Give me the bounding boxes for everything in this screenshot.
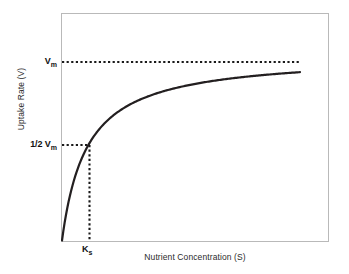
- x-axis-title: Nutrient Concentration (S): [61, 252, 329, 262]
- half-vmax-subscript: m: [51, 144, 57, 151]
- vmax-subscript: m: [51, 61, 57, 68]
- michaelis-menten-chart-figure: Vm 1/2 Vm Ks Nutrient Concentration (S) …: [0, 0, 349, 274]
- y-tick-label-half-vmax: 1/2 Vm: [30, 139, 57, 151]
- y-axis-title: Uptake Rate (V): [16, 34, 26, 164]
- half-fraction: 1/2: [30, 139, 42, 149]
- y-tick-label-vmax: Vm: [45, 56, 57, 68]
- plot-area-frame: [61, 13, 329, 242]
